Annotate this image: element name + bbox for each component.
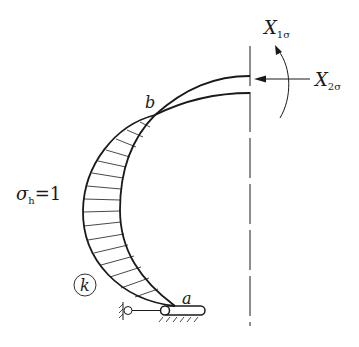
moment-arrow-x1 bbox=[275, 45, 289, 118]
arch-inner-curve bbox=[120, 93, 250, 306]
force-arrow-x2 bbox=[254, 76, 310, 83]
support-a bbox=[119, 302, 205, 322]
label-a: a bbox=[182, 289, 192, 308]
region-k-marker: k bbox=[74, 274, 96, 296]
label-x2: X2σ bbox=[313, 69, 341, 92]
svg-text:k: k bbox=[80, 276, 90, 295]
label-stress: σh=1 bbox=[16, 183, 61, 206]
label-x1: X1σ bbox=[262, 17, 290, 40]
label-b: b bbox=[145, 93, 155, 112]
arch-stress-diagram: b a X1σ X2σ σh=1 k bbox=[0, 0, 359, 347]
